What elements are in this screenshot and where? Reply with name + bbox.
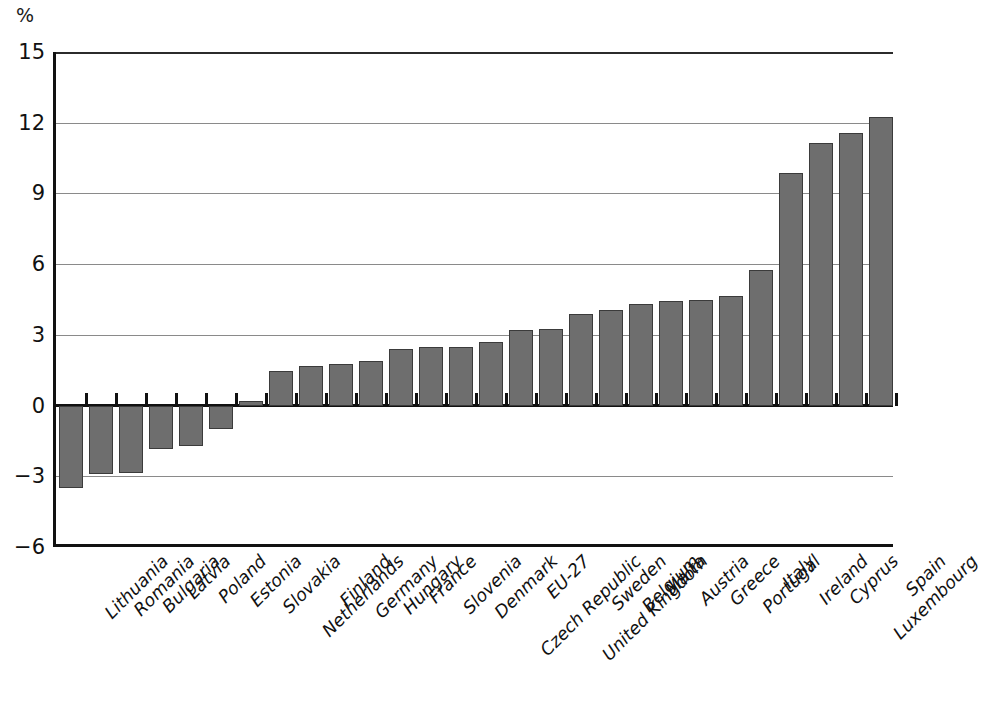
bar-lithuania[interactable] <box>59 406 82 489</box>
bar-malta[interactable] <box>629 304 652 405</box>
x-tickmark <box>685 393 688 406</box>
y-tick-label--6: −6 <box>0 535 45 559</box>
bar-germany[interactable] <box>329 364 352 405</box>
gridline-12 <box>56 123 893 124</box>
bar-luxembourg[interactable] <box>839 133 862 405</box>
x-tickmark <box>535 393 538 406</box>
x-tickmark <box>745 393 748 406</box>
x-tickmark <box>475 393 478 406</box>
x-tickmark <box>895 393 898 406</box>
x-tickmark <box>655 393 658 406</box>
x-tickmark <box>325 393 328 406</box>
y-tick-label-6: 6 <box>0 252 45 276</box>
x-tickmark <box>565 393 568 406</box>
bar-bulgaria[interactable] <box>119 406 142 473</box>
bar-estonia[interactable] <box>209 406 232 430</box>
y-tick-label-12: 12 <box>0 111 45 135</box>
gridline--3 <box>56 476 893 477</box>
x-tickmark <box>265 393 268 406</box>
bar-slovakia[interactable] <box>239 401 262 406</box>
x-tickmark <box>205 393 208 406</box>
x-tickmark <box>295 393 298 406</box>
bar-poland[interactable] <box>179 406 202 446</box>
x-tickmark <box>715 393 718 406</box>
x-tickmark <box>355 393 358 406</box>
x-tickmark <box>145 393 148 406</box>
bar-cyprus[interactable] <box>809 143 832 406</box>
bar-czech-republic[interactable] <box>479 342 502 406</box>
x-tickmark <box>385 393 388 406</box>
x-axis-category-labels: LithuaniaRomaniaBulgariaLatviaPolandEsto… <box>53 551 893 714</box>
bar-denmark[interactable] <box>449 347 472 406</box>
x-tickmark <box>175 393 178 406</box>
x-tickmark <box>415 393 418 406</box>
y-tick-label-9: 9 <box>0 181 45 205</box>
bar-latvia[interactable] <box>149 406 172 450</box>
bar-spain[interactable] <box>869 117 892 406</box>
bar-sweden[interactable] <box>569 314 592 406</box>
bar-united-kingdom[interactable] <box>539 329 562 406</box>
bar-hungary[interactable] <box>359 361 382 406</box>
bar-eu-27[interactable] <box>509 330 532 405</box>
bar-portugal[interactable] <box>719 296 742 406</box>
bar-finland[interactable] <box>299 366 322 406</box>
x-tickmark <box>85 393 88 406</box>
x-tickmark <box>865 393 868 406</box>
y-axis-unit-label: % <box>16 6 34 25</box>
bar-netherlands[interactable] <box>269 371 292 405</box>
x-tickmark <box>445 393 448 406</box>
gridline-6 <box>56 264 893 265</box>
bar-france[interactable] <box>389 349 412 406</box>
bar-romania[interactable] <box>89 406 112 474</box>
plot-area <box>53 52 893 547</box>
bar-greece[interactable] <box>689 300 712 406</box>
x-tickmark <box>805 393 808 406</box>
bar-ireland[interactable] <box>779 173 802 405</box>
plot-top-border <box>56 52 893 54</box>
y-tick-label-0: 0 <box>0 394 45 418</box>
bar-austria[interactable] <box>659 301 682 406</box>
x-tickmark <box>835 393 838 406</box>
y-tick-label-15: 15 <box>0 40 45 64</box>
y-tick-label--3: −3 <box>0 464 45 488</box>
y-tick-label-3: 3 <box>0 323 45 347</box>
bar-italy[interactable] <box>749 270 772 406</box>
x-tickmark <box>625 393 628 406</box>
x-tickmark <box>115 393 118 406</box>
x-tickmark <box>775 393 778 406</box>
bar-slovenia[interactable] <box>419 347 442 406</box>
x-tickmark <box>595 393 598 406</box>
gridline-9 <box>56 193 893 194</box>
bar-belgium[interactable] <box>599 310 622 405</box>
x-tickmark <box>235 393 238 406</box>
x-tickmark <box>505 393 508 406</box>
